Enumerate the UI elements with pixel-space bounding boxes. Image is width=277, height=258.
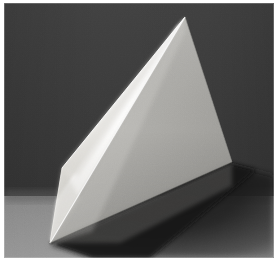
photograph-frame: A white triangular pyramid (tetrahedron)…	[0, 0, 277, 258]
tetrahedron-photograph	[0, 0, 277, 258]
film-grain	[4, 3, 274, 258]
